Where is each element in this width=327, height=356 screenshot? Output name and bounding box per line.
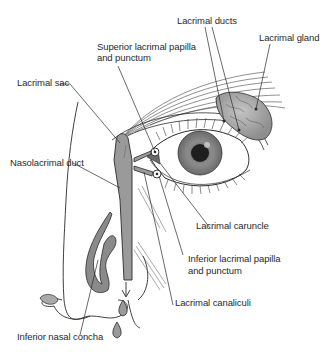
- label-inferior-nasal-concha: Inferior nasal concha: [17, 331, 103, 342]
- inferior-punctum-dot: [156, 173, 159, 176]
- label-lacrimal-ducts: Lacrimal ducts: [177, 15, 237, 26]
- cheek-hatching: [134, 186, 166, 290]
- lacrimal-apparatus-diagram: Lacrimal ducts Lacrimal gland Superior l…: [0, 0, 327, 356]
- lacrimal-sac-and-duct: [114, 134, 132, 280]
- label-nasolacrimal-duct: Nasolacrimal duct: [10, 157, 84, 168]
- label-inferior-papilla-line1: Inferior lacrimal papilla: [188, 253, 281, 264]
- label-lacrimal-caruncle: Lacrimal caruncle: [196, 220, 269, 231]
- label-lacrimal-canaliculi: Lacrimal canaliculi: [175, 297, 251, 308]
- diagram-artwork: [0, 0, 327, 356]
- flow-arrow: [122, 282, 130, 297]
- lacrimal-canaliculi: [134, 151, 153, 176]
- label-lacrimal-gland: Lacrimal gland: [259, 32, 319, 43]
- label-superior-papilla-line2: and punctum: [97, 52, 151, 63]
- iris-highlight: [204, 142, 210, 148]
- label-superior-papilla-line1: Superior lacrimal papilla: [97, 41, 196, 52]
- label-inferior-papilla-line2: and punctum: [188, 265, 242, 276]
- tear-drop-lower: [113, 322, 121, 338]
- label-lacrimal-sac: Lacrimal sac: [17, 77, 69, 88]
- nostril: [40, 294, 58, 304]
- inferior-nasal-concha: [86, 212, 116, 293]
